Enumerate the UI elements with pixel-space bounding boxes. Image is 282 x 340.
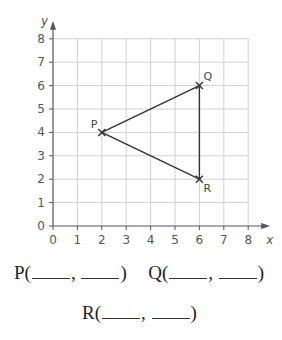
blank-r-y[interactable] xyxy=(152,317,190,319)
x-tick-label: 3 xyxy=(122,233,130,247)
y-tick-label: 2 xyxy=(37,172,45,186)
x-tick-label: 0 xyxy=(49,233,57,247)
x-axis-arrow-icon xyxy=(261,223,270,229)
comma: , xyxy=(208,262,213,283)
x-tick-label: 7 xyxy=(220,233,228,247)
y-tick-label: 0 xyxy=(37,219,45,233)
point-r-label: R( xyxy=(82,302,101,323)
answer-r: R(, ) xyxy=(82,302,197,323)
point-p-label: P( xyxy=(14,262,31,283)
point-p: P xyxy=(91,118,106,136)
y-tick-label: 8 xyxy=(37,32,45,46)
blank-q-y[interactable] xyxy=(219,277,257,279)
y-tick-label: 3 xyxy=(37,149,45,163)
x-tick-label: 2 xyxy=(98,233,106,247)
x-tick-label: 5 xyxy=(171,233,179,247)
point-q-label: Q( xyxy=(148,262,168,283)
point-r: R xyxy=(196,176,212,196)
x-tick-label: 1 xyxy=(74,233,82,247)
y-axis-label: y xyxy=(40,14,49,28)
comma: , xyxy=(141,302,146,323)
answer-row-2: R(, ) xyxy=(82,302,197,324)
x-axis-label: x xyxy=(265,233,274,247)
y-axis-arrow-icon xyxy=(50,21,56,30)
blank-p-y[interactable] xyxy=(81,277,119,279)
point-label: P xyxy=(91,118,98,131)
y-tick-label: 5 xyxy=(37,102,45,116)
x-tick-label: 4 xyxy=(147,233,155,247)
x-tick-label: 8 xyxy=(244,233,252,247)
y-tick-label: 4 xyxy=(37,125,45,139)
close-paren: ) xyxy=(120,262,126,283)
close-paren: ) xyxy=(258,262,264,283)
close-paren: ) xyxy=(191,302,197,323)
point-q: Q xyxy=(196,70,213,90)
tick-labels: 012345678012345678xy xyxy=(37,14,274,247)
blank-q-x[interactable] xyxy=(169,277,207,279)
point-label: Q xyxy=(203,70,212,83)
answer-q: Q(, ) xyxy=(148,262,264,283)
y-tick-label: 1 xyxy=(37,196,45,210)
point-label: R xyxy=(203,182,211,195)
answer-p: P(, ) xyxy=(14,262,131,283)
coordinate-grid-diagram: 012345678012345678xy PQR xyxy=(0,0,282,250)
axes xyxy=(50,21,270,229)
blank-r-x[interactable] xyxy=(102,317,140,319)
x-tick-label: 6 xyxy=(196,233,204,247)
y-tick-label: 6 xyxy=(37,79,45,93)
y-tick-label: 7 xyxy=(37,55,45,69)
comma: , xyxy=(71,262,76,283)
answer-row-1: P(, ) Q(, ) xyxy=(14,262,264,284)
grid-lines xyxy=(53,39,248,226)
blank-p-x[interactable] xyxy=(32,277,70,279)
